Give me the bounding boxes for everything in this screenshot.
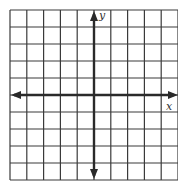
arrow-down-icon (90, 169, 98, 179)
arrow-right-icon (168, 91, 178, 99)
axes (11, 11, 178, 179)
coordinate-plane (0, 0, 178, 189)
arrow-up-icon (90, 11, 98, 21)
x-axis-label: x (166, 101, 172, 112)
arrow-left-icon (11, 91, 21, 99)
y-axis-label: y (99, 10, 105, 21)
